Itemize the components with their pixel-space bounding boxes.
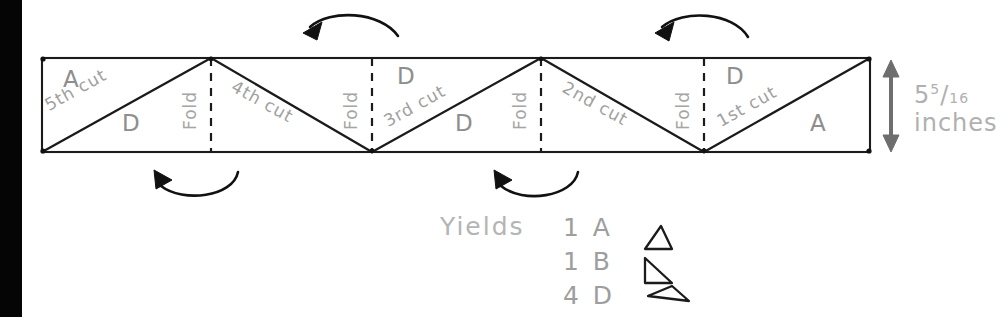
yield-row-b: 1 B [563, 247, 613, 276]
region-letter-d-4: D [726, 63, 745, 89]
fold-label-4: Fold [673, 91, 693, 130]
fold-label-1: Fold [180, 91, 200, 130]
yield-shape-d [648, 286, 689, 301]
dimension-numerator: 5 [930, 81, 940, 97]
yield-shape-b [645, 258, 672, 283]
dimension-slash: / [940, 81, 949, 109]
diagram-svg [0, 0, 1003, 317]
yield-row-a: 1 A [563, 213, 613, 242]
region-letter-d-2: D [397, 63, 416, 89]
dimension-unit: inches [914, 108, 998, 138]
fold-label-3: Fold [510, 91, 530, 130]
dimension-whole: 5 [914, 81, 930, 109]
region-letter-d-1: D [122, 110, 141, 136]
yield-count-d: 4 [563, 281, 582, 310]
curved-arrow-bottom-right [494, 170, 578, 196]
diagram-canvas: A D D D D A 5th cut 4th cut 3rd cut 2nd … [0, 0, 1003, 317]
yield-count-b: 1 [563, 247, 582, 276]
curved-arrow-top-right [655, 16, 748, 41]
yields-heading: Yields [440, 212, 525, 241]
fold-label-2: Fold [341, 91, 361, 130]
curved-arrow-top-left [303, 15, 398, 40]
yield-piece-b: B [593, 247, 613, 276]
curved-arrow-bottom-left [154, 170, 238, 196]
region-letter-a-right: A [810, 110, 827, 136]
dimension-denominator: 16 [949, 90, 969, 106]
dimension-arrow [883, 60, 899, 152]
yield-row-d: 4 D [563, 281, 615, 310]
yield-piece-a: A [593, 213, 613, 242]
region-letter-d-3: D [455, 110, 474, 136]
yield-shape-a [645, 226, 672, 249]
yield-count-a: 1 [563, 213, 582, 242]
yield-piece-d: D [593, 281, 615, 310]
